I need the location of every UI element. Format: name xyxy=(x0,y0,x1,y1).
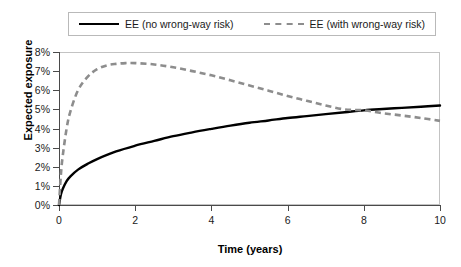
x-tick-label: 0 xyxy=(56,214,62,226)
y-tick xyxy=(53,148,59,149)
x-tick xyxy=(288,205,289,211)
x-tick-label: 4 xyxy=(208,214,214,226)
x-tick xyxy=(59,205,60,211)
x-tick-label: 2 xyxy=(132,214,138,226)
y-tick-label: 7% xyxy=(35,65,50,77)
x-axis-title: Time (years) xyxy=(59,243,441,255)
y-tick-label: 4% xyxy=(35,123,50,135)
y-tick xyxy=(53,71,59,72)
x-tick-label: 8 xyxy=(361,214,367,226)
legend-line-solid-icon xyxy=(79,23,119,25)
legend-label-no-wrong-way-risk: EE (no wrong-way risk) xyxy=(125,19,234,30)
x-axis-line xyxy=(59,205,441,206)
x-tick xyxy=(440,205,441,211)
x-tick-label: 6 xyxy=(285,214,291,226)
plot-area xyxy=(59,52,440,205)
y-tick xyxy=(53,109,59,110)
legend-item-with-wrong-way-risk[interactable]: EE (with wrong-way risk) xyxy=(264,19,426,30)
y-tick-label: 3% xyxy=(35,142,50,154)
y-tick-label: 0% xyxy=(35,199,50,211)
y-axis-line xyxy=(59,52,60,206)
y-tick xyxy=(53,167,59,168)
y-tick-label: 8% xyxy=(35,46,50,58)
y-tick xyxy=(53,52,59,53)
y-tick-label: 6% xyxy=(35,84,50,96)
chart-legend: EE (no wrong-way risk) EE (with wrong-wa… xyxy=(68,12,436,36)
expected-exposure-chart: EE (no wrong-way risk) EE (with wrong-wa… xyxy=(0,0,461,267)
x-tick xyxy=(211,205,212,211)
x-tick-label: 10 xyxy=(434,214,446,226)
x-tick xyxy=(364,205,365,211)
y-axis-title: Expected exposure xyxy=(22,10,34,170)
y-tick-label: 5% xyxy=(35,103,50,115)
y-tick-label: 2% xyxy=(35,161,50,173)
y-tick xyxy=(53,129,59,130)
y-tick xyxy=(53,90,59,91)
legend-item-no-wrong-way-risk[interactable]: EE (no wrong-way risk) xyxy=(79,19,234,30)
y-tick xyxy=(53,186,59,187)
y-tick-label: 1% xyxy=(35,180,50,192)
legend-line-dashed-icon xyxy=(264,23,304,25)
x-tick xyxy=(135,205,136,211)
legend-label-with-wrong-way-risk: EE (with wrong-way risk) xyxy=(310,19,426,30)
